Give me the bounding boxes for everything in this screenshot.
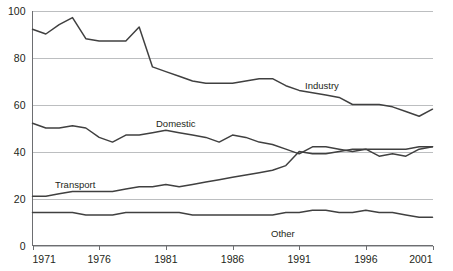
y-tick-label-0: 0 (20, 240, 26, 252)
x-tick-label-1991: 1991 (287, 253, 311, 265)
y-tick-label-40: 40 (14, 146, 26, 158)
series-line-domestic (33, 123, 433, 156)
y-tick-label-100: 100 (8, 5, 26, 17)
y-tick-label-20: 20 (14, 193, 26, 205)
chart-canvas: 020406080100 197119761981198619911996200… (0, 0, 453, 271)
y-axis-tick-labels: 020406080100 (8, 5, 26, 252)
series-line-industry (33, 18, 433, 117)
x-tick-label-1981: 1981 (154, 253, 178, 265)
x-axis-tick-labels: 1971197619811986199119962001 (33, 253, 433, 265)
x-tick-label-2001: 2001 (409, 253, 433, 265)
y-tick-label-60: 60 (14, 99, 26, 111)
series-label-domestic: Domestic (156, 118, 196, 129)
series-label-other: Other (271, 228, 295, 239)
line-chart: 020406080100 197119761981198619911996200… (0, 0, 453, 271)
series-label-transport: Transport (55, 179, 96, 190)
x-tick-label-1971: 1971 (33, 253, 57, 265)
x-tick-label-1986: 1986 (221, 253, 245, 265)
x-tick-label-1996: 1996 (354, 253, 378, 265)
series-line-other (33, 210, 433, 217)
y-tick-label-80: 80 (14, 52, 26, 64)
series-label-industry: Industry (305, 80, 339, 91)
x-tick-label-1976: 1976 (87, 253, 111, 265)
